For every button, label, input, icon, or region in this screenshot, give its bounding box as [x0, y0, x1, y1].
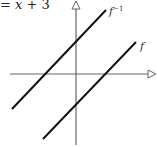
- line-f: [43, 42, 136, 139]
- graph: f−1 f: [0, 0, 157, 147]
- line-f-inverse: [12, 10, 106, 109]
- y-axis-arrow-icon: [72, 1, 80, 9]
- label-f: f: [139, 40, 146, 53]
- label-f-inverse: f−1: [108, 5, 123, 18]
- x-axis-arrow-icon: [148, 70, 156, 78]
